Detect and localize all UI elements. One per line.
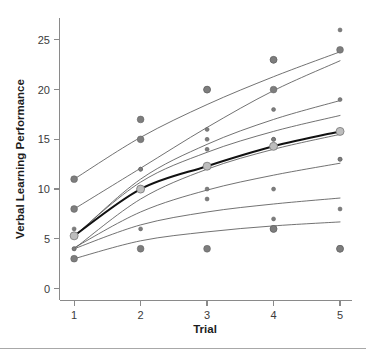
average-point	[137, 185, 145, 193]
x-tick-label: 3	[204, 309, 210, 321]
data-point	[71, 255, 78, 262]
x-tick-label: 4	[270, 309, 276, 321]
data-point	[270, 86, 277, 93]
data-point	[270, 56, 277, 63]
verbal-learning-spaghetti-plot: 0510152025 12345 Trial Verbal Learning P…	[0, 0, 366, 357]
data-point	[272, 187, 276, 191]
data-point	[270, 225, 277, 232]
data-point	[205, 197, 209, 201]
data-point	[137, 116, 144, 123]
y-tick-label: 25	[38, 34, 50, 46]
data-point	[137, 245, 144, 252]
data-point	[272, 108, 276, 112]
data-point	[71, 206, 78, 213]
y-tick-label: 0	[44, 283, 50, 295]
data-point	[204, 245, 211, 252]
average-point	[270, 142, 278, 150]
data-point	[338, 207, 342, 211]
data-point	[272, 137, 276, 141]
chart-figure: 0510152025 12345 Trial Verbal Learning P…	[0, 0, 366, 357]
x-axis-title: Trial	[193, 323, 217, 335]
data-point	[139, 227, 143, 231]
average-point	[70, 232, 78, 240]
y-tick-label: 15	[38, 133, 50, 145]
x-tick-label: 1	[71, 309, 77, 321]
average-point	[336, 127, 344, 135]
x-tick-label: 5	[337, 309, 343, 321]
data-point	[137, 136, 144, 143]
data-point	[205, 137, 209, 141]
data-point	[338, 98, 342, 102]
data-point	[338, 28, 342, 32]
data-point	[139, 167, 143, 171]
y-axis-title: Verbal Learning Performance	[14, 79, 26, 239]
y-tick-label: 10	[38, 183, 50, 195]
data-point	[72, 247, 76, 251]
data-point	[204, 86, 211, 93]
y-tick-label: 5	[44, 233, 50, 245]
data-point	[337, 46, 344, 53]
data-point	[338, 157, 342, 161]
data-point	[71, 176, 78, 183]
footer-divider	[0, 348, 366, 349]
data-point	[72, 227, 76, 231]
data-point	[272, 217, 276, 221]
data-point	[205, 187, 209, 191]
data-point	[337, 245, 344, 252]
y-tick-label: 20	[38, 84, 50, 96]
average-point	[203, 162, 211, 170]
data-point	[205, 127, 209, 131]
data-point	[205, 147, 209, 151]
x-tick-label: 2	[138, 309, 144, 321]
